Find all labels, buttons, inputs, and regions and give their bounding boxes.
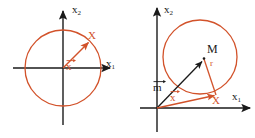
right-x1-axis-label: x1 — [232, 91, 241, 104]
left-vector-x-label-text: x — [66, 60, 72, 72]
right-x1-axis-label-subscript: 1 — [238, 96, 242, 104]
left-x2-axis-label: x2 — [72, 4, 81, 17]
right-point-X-label: X — [212, 95, 220, 106]
right-point-M-dot — [203, 57, 206, 60]
right-vector-x-label-text: x — [170, 91, 176, 103]
right-vector-x-label: x — [170, 92, 176, 103]
left-point-X-label: X — [88, 30, 96, 41]
right-x2-axis-label: x2 — [164, 4, 173, 17]
right-vector-m-label: m — [153, 82, 162, 93]
left-x1-axis-label-subscript: 1 — [112, 63, 116, 71]
left-x2-axis-label-subscript: 2 — [78, 9, 82, 17]
left-vector-x-label: x — [66, 61, 72, 72]
right-radius-r-label: r — [210, 59, 213, 68]
right-circle — [163, 20, 237, 94]
right-point-M-label: M — [207, 43, 218, 55]
right-x2-axis-label-subscript: 2 — [170, 9, 174, 17]
right-vector-m-label-text: m — [153, 81, 162, 93]
figure-vector-graphics — [0, 0, 255, 138]
right-panel-graphics — [140, 8, 250, 132]
right-center-vector-m — [157, 62, 202, 109]
figure-canvas: x2 x1 X x x2 x1 M X r m x — [0, 0, 255, 138]
right-position-vector-x — [157, 96, 215, 109]
left-x1-axis-label: x1 — [106, 58, 115, 71]
